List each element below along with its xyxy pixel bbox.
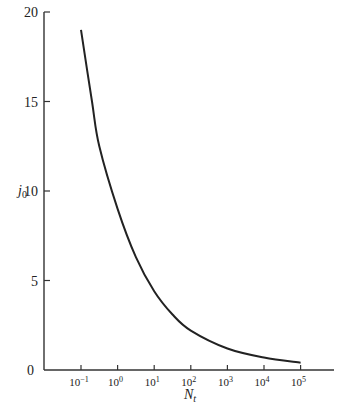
x-tick-label: 100: [108, 375, 123, 388]
y-ticks: 05101520: [24, 5, 50, 378]
y-tick-label: 20: [24, 5, 38, 20]
x-tick-label: 103: [218, 375, 233, 388]
series: [81, 30, 301, 363]
chart: 10−1100101102103104105 05101520 j0 Nt: [0, 0, 341, 403]
axes: [44, 12, 334, 370]
y-tick-label: 5: [31, 274, 38, 289]
x-tick-label: 101: [145, 375, 160, 388]
y-tick-label: 15: [24, 95, 38, 110]
x-ticks: 10−1100101102103104105: [69, 365, 306, 388]
x-axis-label: Nt: [183, 387, 196, 403]
x-tick-label: 105: [291, 375, 306, 388]
y-tick-label: 0: [27, 363, 34, 378]
series-line: [81, 30, 301, 363]
x-tick-label: 104: [255, 375, 270, 388]
x-tick-label: 10−1: [69, 375, 89, 388]
